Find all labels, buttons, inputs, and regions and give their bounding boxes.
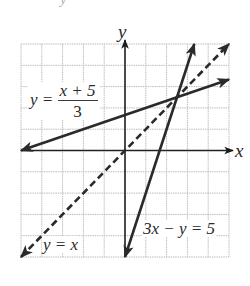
equation-label-line2: 3x − y = 5: [142, 220, 216, 237]
cut-off-caption: y: [60, 0, 67, 7]
line1-numerator: x + 5: [58, 82, 98, 101]
equation-label-line3: y = x: [42, 236, 79, 253]
line1-lhs: y =: [30, 90, 53, 109]
x-axis-label: x: [235, 141, 243, 160]
line1-fraction: x + 5 3: [58, 82, 98, 120]
linear-system-graph: y y x y = x + 5 3 3x − y = 5 y = x: [0, 0, 250, 286]
line1-denominator: 3: [58, 101, 98, 120]
y-axis-label: y: [118, 22, 126, 41]
coordinate-plane: [0, 0, 250, 286]
equation-label-line1: y = x + 5 3: [28, 82, 100, 120]
